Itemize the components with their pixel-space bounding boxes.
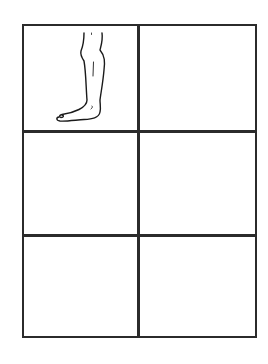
grid-cell-r1-c2	[140, 26, 254, 130]
grid-cell-r3-c2	[140, 237, 254, 336]
grid-table	[22, 24, 257, 338]
figure-canvas	[0, 0, 268, 364]
grid-cell-r2-c2	[140, 133, 254, 235]
grid-cell-r1-c1	[24, 26, 137, 130]
grid-cell-r2-c1	[24, 133, 137, 235]
grid-cell-r3-c1	[24, 237, 137, 336]
